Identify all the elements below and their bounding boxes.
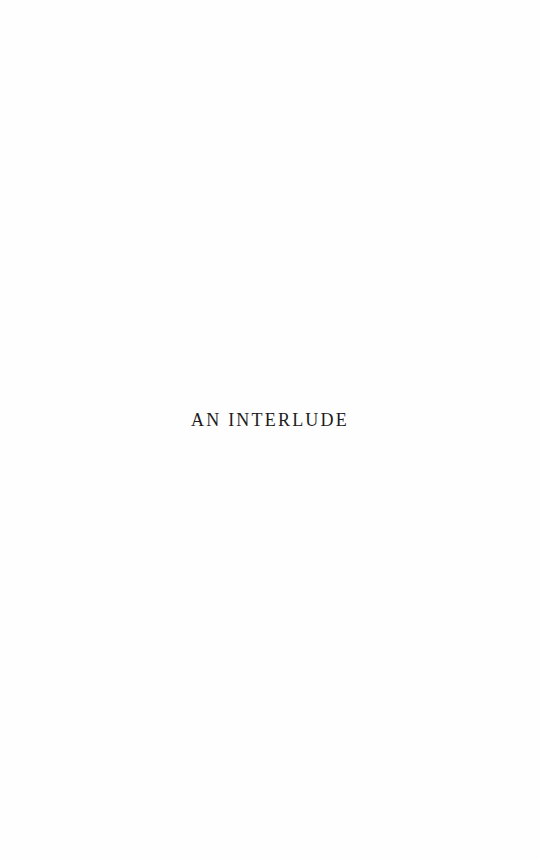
section-title: AN INTERLUDE	[0, 409, 540, 431]
book-page: AN INTERLUDE	[0, 0, 540, 860]
